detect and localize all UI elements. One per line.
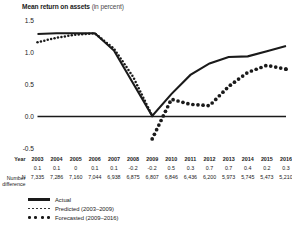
table-cell-year: 2014: [238, 156, 258, 162]
table-cell-n: 6,807: [142, 174, 162, 180]
y-axis-tick-label: -0.5: [23, 145, 35, 152]
legend-marker-small-dots-icon: [28, 204, 50, 213]
table-cell-n: 7,044: [85, 174, 105, 180]
table-cell-number-difference: -0.2: [142, 165, 162, 171]
table-cell-year: 2008: [123, 156, 143, 162]
table-cell-year: 2012: [200, 156, 220, 162]
table-row-label-n: N: [2, 174, 26, 180]
table-cell-number-difference: 0.3: [180, 165, 200, 171]
legend-item-actual: Actual: [28, 195, 119, 204]
y-axis-tick-label: 1.0: [25, 49, 34, 56]
table-cell-n: 5,745: [238, 174, 258, 180]
table-cell-year: 2009: [142, 156, 162, 162]
series-dots-predicted: [36, 32, 153, 117]
table-cell-number-difference: 0.1: [47, 165, 67, 171]
series-line-actual: [38, 33, 287, 116]
table-cell-number-difference: 0.7: [200, 165, 220, 171]
table-cell-number-difference: 0.1: [85, 165, 105, 171]
table-cell-year: 2016: [276, 156, 292, 162]
table-cell-number-difference: 0.2: [257, 165, 277, 171]
table-row-number-difference: Number difference 0.10.100.10.1-0.2-0.20…: [0, 164, 292, 173]
table-cell-number-difference: 0.1: [104, 165, 124, 171]
table-cell-number-difference: 0.1: [28, 165, 48, 171]
table-cell-n: 6,436: [180, 174, 200, 180]
legend-item-predicted: Predicted (2003–2009): [28, 204, 119, 213]
table-cell-number-difference: -0.2: [123, 165, 143, 171]
legend-label-predicted: Predicted (2003–2009): [55, 206, 114, 212]
y-axis-tick-label: 1.5: [25, 17, 34, 24]
table-row-years: Year 20032004200520062007200820092010201…: [0, 155, 292, 164]
chart-figure: Mean return on assets (in percent) 1.51.…: [0, 0, 292, 226]
table-cell-n: 7,286: [47, 174, 67, 180]
table-cell-n: 5,473: [257, 174, 277, 180]
table-cell-n: 7,160: [66, 174, 86, 180]
legend-item-forecasted: Forecasted (2009–2016): [28, 213, 119, 222]
table-cell-n: 6,938: [104, 174, 124, 180]
table-cell-number-difference: 0.3: [276, 165, 292, 171]
y-axis-tick-label: 0.5: [25, 81, 34, 88]
legend-label-actual: Actual: [55, 197, 71, 203]
table-cell-year: 2004: [47, 156, 67, 162]
table-cell-year: 2013: [219, 156, 239, 162]
chart-data-table: Year 20032004200520062007200820092010201…: [0, 155, 292, 182]
chart-title: Mean return on assets (in percent): [22, 3, 124, 10]
chart-plot-area: 1.51.00.50.0-0.5: [0, 0, 292, 155]
chart-legend: Actual Predicted (2003–2009) Forecasted …: [28, 195, 119, 222]
table-cell-year: 2003: [28, 156, 48, 162]
legend-marker-large-dots-icon: [28, 213, 50, 222]
table-cell-n: 6,200: [200, 174, 220, 180]
legend-marker-solid-line-icon: [28, 195, 50, 204]
series-dots-forecasted: [150, 64, 288, 141]
table-cell-number-difference: 0.7: [219, 165, 239, 171]
y-axis-tick-label: 0.0: [25, 113, 34, 120]
table-cell-n: 6,875: [123, 174, 143, 180]
table-cell-year: 2005: [66, 156, 86, 162]
table-cell-year: 2006: [85, 156, 105, 162]
table-cell-number-difference: 0: [66, 165, 86, 171]
table-cell-n: 5,973: [219, 174, 239, 180]
table-cell-year: 2011: [180, 156, 200, 162]
table-cell-year: 2007: [104, 156, 124, 162]
table-cell-n: 6,846: [161, 174, 181, 180]
chart-title-unit: (in percent): [92, 3, 124, 10]
table-cell-n: 7,335: [28, 174, 48, 180]
table-row-label-year: Year: [2, 156, 26, 162]
table-cell-number-difference: 0.4: [238, 165, 258, 171]
chart-title-main: Mean return on assets: [22, 3, 90, 10]
table-row-n: N 7,3357,2867,1607,0446,9386,8756,8076,8…: [0, 173, 292, 182]
table-cell-n: 5,210: [276, 174, 292, 180]
table-cell-year: 2015: [257, 156, 277, 162]
table-cell-year: 2010: [161, 156, 181, 162]
table-cell-number-difference: 0.5: [161, 165, 181, 171]
legend-label-forecasted: Forecasted (2009–2016): [55, 215, 119, 221]
